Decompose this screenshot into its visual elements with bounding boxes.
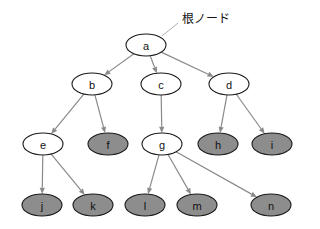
- arrow-head-icon: [219, 126, 224, 133]
- annotation-leader-line: [162, 23, 178, 36]
- node-label-j: j: [40, 200, 43, 212]
- tree-node-m[interactable]: m: [177, 194, 217, 216]
- tree-edge-e-j: [40, 155, 45, 194]
- node-label-c: c: [158, 79, 164, 91]
- arrow-head-icon: [40, 188, 45, 194]
- node-label-b: b: [89, 79, 95, 91]
- tree-diagram-canvas: 根ノード abcdefghijklmn: [0, 0, 320, 229]
- tree-edge-b-e: [51, 94, 84, 134]
- tree-edge-b-f: [95, 95, 106, 133]
- tree-node-d[interactable]: d: [209, 73, 249, 95]
- tree-node-k[interactable]: k: [73, 194, 113, 216]
- tree-node-n[interactable]: n: [251, 194, 291, 216]
- tree-edge-d-h: [219, 95, 227, 133]
- node-label-e: e: [40, 139, 46, 151]
- tree-diagram-svg: 根ノード abcdefghijklmn: [0, 0, 320, 229]
- node-label-k: k: [90, 200, 96, 212]
- arrow-head-icon: [101, 126, 106, 133]
- tree-node-h[interactable]: h: [198, 133, 238, 155]
- node-label-l: l: [144, 200, 146, 212]
- node-label-n: n: [268, 200, 274, 212]
- tree-edge-d-i: [236, 94, 264, 134]
- tree-edge-a-d: [161, 52, 214, 77]
- tree-node-g[interactable]: g: [142, 133, 182, 155]
- node-label-h: h: [215, 139, 221, 151]
- tree-node-e[interactable]: e: [23, 133, 63, 155]
- node-label-i: i: [271, 139, 273, 151]
- node-label-d: d: [226, 79, 232, 91]
- arrow-head-icon: [152, 67, 157, 74]
- tree-node-f[interactable]: f: [88, 133, 128, 155]
- arrow-head-icon: [159, 127, 164, 133]
- tree-node-i[interactable]: i: [252, 133, 292, 155]
- tree-edge-a-b: [104, 54, 134, 76]
- tree-edge-e-k: [51, 154, 85, 195]
- arrow-head-icon: [104, 70, 111, 76]
- tree-node-b[interactable]: b: [72, 73, 112, 95]
- arrow-head-icon: [147, 187, 152, 194]
- tree-edge-g-m: [168, 154, 191, 194]
- annotations-layer: 根ノード: [162, 12, 230, 36]
- nodes-layer: abcdefghijklmn: [22, 34, 292, 216]
- tree-node-l[interactable]: l: [125, 194, 165, 216]
- annotation-label-root-node: 根ノード: [182, 12, 230, 26]
- tree-node-j[interactable]: j: [22, 194, 62, 216]
- node-label-m: m: [192, 200, 201, 212]
- node-label-a: a: [143, 40, 150, 52]
- arrow-head-icon: [259, 127, 265, 134]
- node-label-g: g: [159, 139, 165, 151]
- tree-node-c[interactable]: c: [141, 73, 181, 95]
- tree-edge-a-c: [150, 56, 157, 73]
- tree-node-a[interactable]: a: [126, 34, 166, 56]
- tree-edge-g-l: [147, 155, 159, 194]
- tree-edge-c-g: [159, 95, 164, 133]
